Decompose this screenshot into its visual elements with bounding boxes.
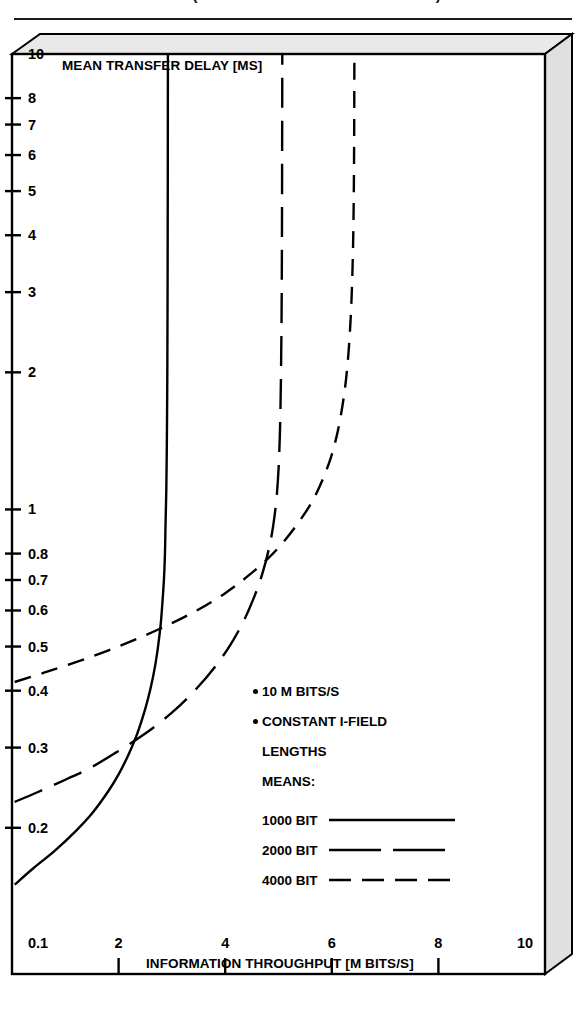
- bullet-icon: [253, 689, 258, 694]
- y-axis-tick-label: 0.6: [28, 603, 48, 618]
- legend-entry-4000-bit: 4000 BIT: [253, 865, 483, 895]
- legend-entry-1000-bit: 1000 BIT: [253, 805, 483, 835]
- legend-entry-2000-bit: 2000 BIT: [253, 835, 483, 865]
- legend-entry-2000-bit-label: 2000 BIT: [253, 843, 327, 858]
- y-axis-tick-label: 0.5: [28, 640, 48, 655]
- y-axis-tick-label: 6: [28, 148, 36, 163]
- y-axis-title: MEAN TRANSFER DELAY [MS]: [62, 58, 262, 73]
- chart-figure: 10876543210.80.70.60.50.40.30.2 0.124681…: [0, 22, 586, 1012]
- legend-note-lengths: LENGTHS: [253, 745, 483, 775]
- y-axis-tick-label: 10: [28, 47, 44, 62]
- y-axis-tick-label: 0.2: [28, 821, 48, 836]
- y-axis-tick-label: 0.8: [28, 547, 48, 562]
- x-axis-title: INFORMATION THROUGHPUT [M BITS/S]: [146, 956, 414, 971]
- box-right-face: [545, 34, 572, 974]
- y-axis-tick-label: 5: [28, 184, 36, 199]
- bullet-icon: [253, 719, 258, 724]
- x-axis-tick-label: 6: [310, 936, 354, 951]
- x-axis-tick-label: 2: [97, 936, 141, 951]
- y-axis-tick-label: 8: [28, 91, 36, 106]
- y-axis-tick-label: 0.4: [28, 684, 48, 699]
- x-axis-tick-label: 10: [503, 936, 547, 951]
- y-axis-tick-label: 7: [28, 118, 36, 133]
- legend-note-bitrate: 10 M BITS/S: [253, 685, 483, 715]
- legend-note-ifield: CONSTANT I-FIELD: [253, 715, 483, 745]
- legend-entry-4000-bit-label: 4000 BIT: [253, 873, 327, 888]
- figure-caption-text: FIG. 4 (PARTIALLY CROPPED HEADING): [0, 0, 586, 3]
- x-axis-tick-label: 8: [416, 936, 460, 951]
- y-axis-tick-label: 2: [28, 365, 36, 380]
- y-axis-tick-label: 0.3: [28, 741, 48, 756]
- y-axis-tick-label: 0.7: [28, 573, 48, 588]
- legend-swatch-1000-bit: [327, 814, 483, 826]
- legend-note-bitrate-text: 10 M BITS/S: [262, 684, 339, 699]
- legend-swatch-4000-bit: [327, 874, 483, 886]
- legend-swatch-2000-bit: [327, 844, 483, 856]
- legend-entry-1000-bit-label: 1000 BIT: [253, 813, 327, 828]
- legend-note-ifield-text: CONSTANT I-FIELD: [262, 714, 387, 729]
- box-top-face: [12, 34, 572, 54]
- chart-legend: 10 M BITS/S CONSTANT I-FIELD LENGTHS MEA…: [253, 685, 483, 895]
- y-axis-tick-label: 3: [28, 285, 36, 300]
- legend-note-means: MEANS:: [253, 775, 483, 805]
- y-axis-tick-label: 1: [28, 502, 36, 517]
- x-axis-tick-label: 4: [203, 936, 247, 951]
- caption-divider-rule: [14, 18, 572, 20]
- y-axis-tick-label: 4: [28, 228, 36, 243]
- x-axis-tick-label: 0.1: [16, 936, 60, 951]
